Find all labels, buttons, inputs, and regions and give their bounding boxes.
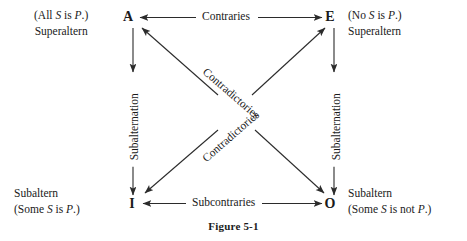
corner-o-prop-close: .) — [425, 203, 432, 215]
corner-a-proposition: (All S is P.) — [34, 8, 88, 24]
edge-label-subcontraries: Subcontraries — [188, 197, 259, 209]
corner-block-e: (No S is P.) Superaltern — [348, 8, 402, 39]
arrow-contradictories-a-to-o-lower — [255, 130, 324, 193]
corner-e-predicate: P — [388, 9, 395, 21]
corner-a-predicate: P — [75, 9, 82, 21]
corner-a-role: Superaltern — [34, 24, 88, 40]
vertex-o: O — [322, 197, 338, 211]
corner-block-a: (All S is P.) Superaltern — [34, 8, 88, 39]
corner-block-i: Subaltern (Some S is P.) — [14, 186, 80, 217]
corner-e-prop-mid: is — [375, 9, 388, 21]
corner-e-prop-close: .) — [395, 9, 402, 21]
corner-e-role: Superaltern — [348, 24, 402, 40]
corner-i-prop-mid: is — [53, 203, 66, 215]
vertex-a: A — [120, 10, 136, 24]
edge-label-subalternation-right: Subalternation — [328, 87, 346, 167]
corner-o-prop-mid: is not — [387, 203, 418, 215]
corner-a-prop-close: .) — [82, 9, 89, 21]
figure-caption: Figure 5-1 — [0, 220, 467, 232]
edge-label-subalternation-left: Subalternation — [126, 87, 144, 167]
corner-o-predicate: P — [418, 203, 425, 215]
square-of-opposition-figure: A E I O (All S is P.) Superaltern (No S … — [0, 0, 467, 241]
vertex-e: E — [322, 10, 338, 24]
vertex-i: I — [124, 197, 140, 211]
edge-label-contraries: Contraries — [198, 11, 254, 23]
corner-o-prop-open: (Some — [348, 203, 381, 215]
corner-o-role: Subaltern — [348, 186, 431, 202]
corner-block-o: Subaltern (Some S is not P.) — [348, 186, 431, 217]
corner-i-prop-close: .) — [73, 203, 80, 215]
corner-a-prop-open: (All — [34, 9, 55, 21]
corner-e-proposition: (No S is P.) — [348, 8, 402, 24]
corner-o-proposition: (Some S is not P.) — [348, 202, 431, 218]
arrow-contradictories-e-to-i-upper — [252, 28, 325, 95]
corner-i-proposition: (Some S is P.) — [14, 202, 80, 218]
corner-a-prop-mid: is — [61, 9, 74, 21]
arrow-contradictories-a-to-o-upper — [142, 28, 218, 95]
corner-i-role: Subaltern — [14, 186, 80, 202]
corner-e-prop-open: (No — [348, 9, 369, 21]
corner-i-prop-open: (Some — [14, 203, 47, 215]
